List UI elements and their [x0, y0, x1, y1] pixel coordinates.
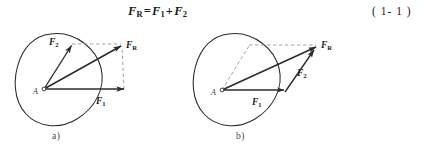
equation-lhs-symbol: FR: [128, 4, 143, 18]
application-point-b: [220, 88, 224, 92]
vector-label-fr-b: FR: [320, 40, 332, 51]
equation-plus-sign: +: [165, 4, 174, 18]
vector-label-fr-a-sub: R: [132, 44, 137, 51]
equation-term2-symbol: F2: [174, 4, 187, 18]
vector-label-f2-b: F2: [296, 68, 307, 79]
diagram-a-parallelogram-rule: A F2 FR F1: [15, 34, 137, 126]
equation-number: ( 1- 1 ): [372, 5, 412, 17]
vector-fr-a: [44, 46, 121, 89]
force-composition-diagrams: A F2 FR F1: [0, 26, 444, 131]
point-label-b: A: [210, 88, 216, 97]
vector-label-f1-b-sub: 1: [258, 101, 261, 108]
vector-f2-a: [44, 46, 72, 90]
equation-formula: FR=F1+F2: [128, 4, 187, 19]
caption-figure-b: b): [236, 131, 245, 141]
caption-figure-a: a): [52, 131, 60, 141]
point-label-a: A: [32, 87, 38, 96]
figure-page: FR=F1+F2 ( 1- 1 ): [0, 0, 444, 151]
dashed-line-a-right: [122, 46, 124, 89]
equation-equals-sign: =: [143, 4, 152, 18]
body-outline-b: [193, 34, 280, 126]
vector-label-f1-a-sub: 1: [102, 100, 105, 107]
equation-lhs-subscript: R: [137, 9, 143, 19]
vector-label-f2-b-sub: 2: [303, 72, 307, 79]
figures-container: A F2 FR F1: [0, 26, 444, 131]
equation-term1-symbol: F1: [152, 4, 165, 18]
vector-label-fr-b-sub: R: [327, 44, 332, 51]
vector-label-fr-a: FR: [125, 40, 137, 51]
application-point-a: [42, 87, 46, 91]
body-outline-a: [15, 34, 102, 126]
vector-label-f1-a: F1: [95, 96, 106, 107]
vector-label-f1-b: F1: [251, 97, 262, 108]
vector-label-f2-a: F2: [48, 37, 59, 48]
vector-label-f2-a-sub: 2: [55, 41, 59, 48]
equation-term2-subscript: 2: [183, 9, 187, 19]
diagram-b-triangle-rule: A FR F2 F1: [193, 34, 332, 126]
